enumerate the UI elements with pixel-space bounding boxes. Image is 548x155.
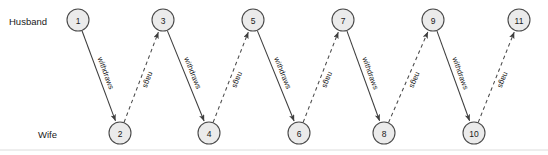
node-11[interactable]: 11 (508, 9, 530, 31)
edge-label: withdraws (360, 55, 380, 91)
edge-label: nags (496, 71, 511, 90)
node-8[interactable]: 8 (373, 122, 395, 144)
node-5[interactable]: 5 (242, 9, 264, 31)
node-9[interactable]: 9 (422, 9, 444, 31)
node-label: 5 (251, 16, 256, 26)
node-label: 11 (515, 16, 524, 26)
edge-label: withdraws (450, 55, 470, 91)
node-label: 10 (469, 129, 479, 139)
node-label: 9 (431, 16, 436, 26)
node-10[interactable]: 10 (463, 122, 485, 144)
node-label: 8 (382, 129, 387, 139)
node-4[interactable]: 4 (198, 122, 220, 144)
node-2[interactable]: 2 (109, 122, 131, 144)
node-3[interactable]: 3 (152, 9, 174, 31)
node-label: 7 (341, 16, 346, 26)
edge-label: nags (230, 71, 244, 90)
node-6[interactable]: 6 (288, 122, 310, 144)
edge-label: nags (320, 71, 334, 90)
interaction-diagram: withdrawsnagswithdrawsnagswithdrawsnagsw… (0, 0, 548, 155)
node-1[interactable]: 1 (67, 9, 89, 31)
edge-label: withdraws (95, 55, 116, 91)
node-7[interactable]: 7 (332, 9, 354, 31)
lane-label-wife: Wife (38, 129, 57, 140)
edge-label: nags (141, 71, 155, 90)
node-label: 3 (161, 16, 166, 26)
node-label: 1 (76, 16, 81, 26)
edge-label-group: withdrawsnagswithdrawsnagswithdrawsnagsw… (95, 55, 510, 91)
lane-label-husband: Husband (9, 16, 47, 27)
diagram-canvas: withdrawsnagswithdrawsnagswithdrawsnagsw… (0, 0, 548, 155)
node-label: 2 (118, 129, 123, 139)
edge-label: nags (408, 71, 423, 90)
node-label: 4 (207, 129, 212, 139)
lane-label-group: HusbandWife (9, 16, 57, 140)
node-label: 6 (297, 129, 302, 139)
